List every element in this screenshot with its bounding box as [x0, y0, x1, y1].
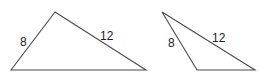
triangle-1-shape: [11, 12, 146, 70]
triangles-figure: 8 12 8 12: [0, 0, 260, 79]
triangle-2: 8 12: [162, 12, 255, 70]
triangle-1: 8 12: [11, 12, 146, 70]
triangle-1-side-label-long: 12: [100, 29, 114, 43]
triangle-2-side-label-short: 8: [168, 36, 175, 50]
triangle-1-side-label-short: 8: [20, 35, 27, 49]
triangle-2-shape: [162, 12, 255, 70]
triangle-2-side-label-long: 12: [212, 31, 226, 45]
